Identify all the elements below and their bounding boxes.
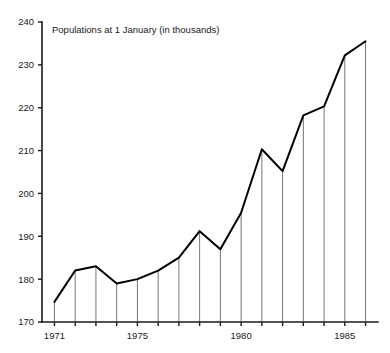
y-tick-label: 200	[18, 188, 34, 199]
y-tick-label: 210	[18, 145, 34, 156]
chart-canvas: 170180190200210220230240 197119751980198…	[0, 0, 390, 353]
y-tick-label: 230	[18, 59, 34, 70]
x-tick-label: 1975	[127, 330, 148, 341]
x-tick-label: 1971	[44, 330, 65, 341]
x-tick-label: 1980	[231, 330, 252, 341]
y-tick-label: 220	[18, 102, 34, 113]
y-tick-label: 240	[18, 16, 34, 27]
x-tick-label: 1985	[334, 330, 355, 341]
plot-background	[0, 0, 390, 353]
population-line-chart: 170180190200210220230240 197119751980198…	[0, 0, 390, 353]
y-tick-label: 180	[18, 274, 34, 285]
y-tick-label: 170	[18, 316, 34, 327]
chart-title: Populations at 1 January (in thousands)	[52, 24, 219, 35]
y-tick-label: 190	[18, 231, 34, 242]
